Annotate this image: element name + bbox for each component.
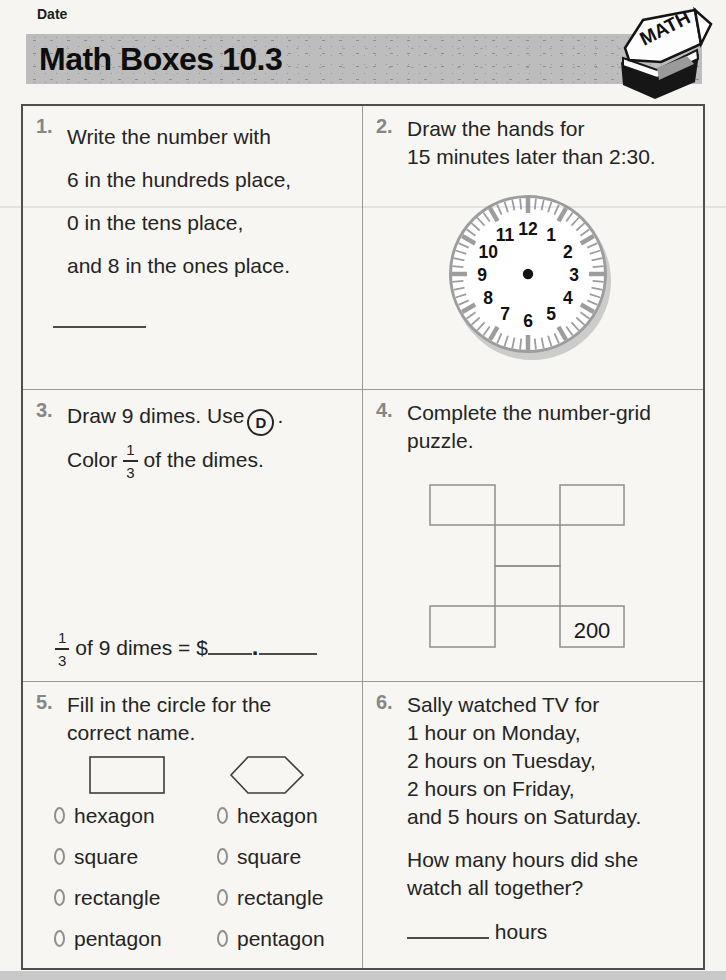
clock-minute-tick	[535, 198, 536, 209]
radio-circle[interactable]	[54, 807, 65, 824]
text-line: Fill in the circle for the	[67, 691, 362, 719]
option-row: rectangle	[54, 886, 162, 909]
hexagon-shape	[231, 757, 303, 793]
option-label: square	[74, 845, 138, 868]
option-row: pentagon	[217, 927, 325, 950]
fraction-denominator: 3	[123, 462, 137, 480]
text-line: 6 in the hundreds place,	[67, 158, 362, 201]
answer-blank[interactable]	[53, 322, 146, 328]
text-line: How many hours did she	[407, 846, 703, 874]
grid-value-200: 200	[574, 618, 611, 643]
option-row: rectangle	[217, 886, 325, 909]
radio-circle[interactable]	[217, 807, 228, 824]
option-row: hexagon	[54, 804, 162, 827]
hours-blank[interactable]	[407, 933, 489, 939]
clock-numeral: 1	[546, 225, 556, 245]
text-line: and 8 in the ones place.	[67, 244, 362, 287]
decimal-point: .	[252, 633, 259, 660]
text-line: Sally watched TV for	[407, 691, 703, 719]
option-row: square	[54, 845, 162, 868]
fraction-one-third: 13	[55, 630, 69, 668]
worksheet-page: Date Math Boxes 10.3 MATH 1. Write the n…	[0, 0, 726, 980]
text-line: Write the number with	[67, 115, 362, 158]
problem-number: 4.	[376, 399, 393, 422]
cents-blank[interactable]	[259, 649, 317, 655]
radio-circle[interactable]	[217, 930, 228, 947]
sentence-color-fraction: Color13of the dimes.	[67, 442, 264, 480]
radio-circle[interactable]	[54, 889, 65, 906]
text-line: correct name.	[67, 719, 362, 747]
rectangle-shape	[90, 757, 164, 793]
grid-cell-empty[interactable]	[495, 566, 560, 606]
grid-cell-empty[interactable]	[495, 525, 560, 566]
grid-cell-empty[interactable]	[430, 606, 495, 647]
shape-figures	[81, 752, 309, 800]
sentence-text: Color	[67, 448, 117, 471]
problem-number: 1.	[36, 115, 53, 138]
clock-minute-tick	[593, 281, 604, 282]
text-line: Draw the hands for	[407, 115, 703, 143]
clock-center-dot	[523, 269, 533, 279]
text-line: 15 minutes later than 2:30.	[407, 143, 703, 171]
fraction-numerator: 1	[123, 442, 137, 462]
problem-number: 3.	[36, 399, 53, 422]
fraction-numerator: 1	[55, 630, 69, 650]
circled-d-symbol: D	[247, 409, 274, 436]
clock-numeral: 9	[477, 265, 487, 285]
text-line: watch all together?	[407, 874, 703, 902]
clock-face[interactable]: 121234567891011	[442, 190, 618, 368]
text-line: 2 hours on Tuesday,	[407, 747, 703, 775]
clock-numeral: 5	[546, 304, 556, 324]
text-line: 2 hours on Friday,	[407, 775, 703, 803]
clock-numeral: 4	[563, 288, 573, 308]
sentence-use-d: Draw 9 dimes. UseD.	[67, 404, 283, 436]
sentence-text: Draw 9 dimes. Use	[67, 404, 244, 427]
hours-answer-line: hours	[407, 920, 547, 944]
option-label: hexagon	[74, 804, 155, 827]
date-label: Date	[37, 6, 67, 22]
clock-numeral: 12	[518, 219, 538, 239]
option-row: hexagon	[217, 804, 325, 827]
option-label: square	[237, 845, 301, 868]
clock-numeral: 11	[496, 225, 515, 245]
clock-numeral: 3	[569, 265, 579, 285]
clock-numeral: 8	[483, 288, 493, 308]
grid-cell-empty[interactable]	[560, 485, 624, 525]
clock-numeral: 6	[523, 311, 533, 331]
option-label: pentagon	[237, 927, 325, 950]
text-line: 1 hour on Monday,	[407, 719, 703, 747]
option-label: pentagon	[74, 927, 162, 950]
sentence-text: .	[277, 404, 283, 427]
text-line: puzzle.	[407, 427, 703, 455]
clock-minute-tick	[520, 198, 521, 209]
text-line: Complete the number-grid	[407, 399, 703, 427]
problem-number: 6.	[376, 691, 393, 714]
text-line: and 5 hours on Saturday.	[407, 803, 703, 831]
options-column-rectangle: hexagonsquarerectanglepentagon	[54, 804, 162, 950]
sentence-text: of 9 dimes = $	[75, 636, 208, 659]
dimes-answer-line: 13of 9 dimes = $.	[49, 630, 317, 668]
clock-minute-tick	[520, 339, 521, 350]
problem-number: 2.	[376, 115, 393, 138]
box-3-dimes: 3. Draw 9 dimes. UseD. Color13of the dim…	[23, 390, 363, 682]
page-edge-strip	[0, 971, 726, 980]
option-label: rectangle	[74, 886, 160, 909]
clock-numeral: 2	[563, 242, 573, 262]
option-label: rectangle	[237, 886, 323, 909]
box-2-clock: 2. Draw the hands for15 minutes later th…	[363, 106, 703, 390]
problem-number: 5.	[36, 691, 53, 714]
radio-circle[interactable]	[54, 848, 65, 865]
clock-minute-tick	[535, 339, 536, 350]
box-6-tv-hours: 6. Sally watched TV for1 hour on Monday,…	[363, 682, 703, 968]
dollars-blank[interactable]	[208, 649, 252, 655]
hours-label: hours	[495, 920, 548, 943]
grid-cell-empty[interactable]	[430, 485, 495, 525]
radio-circle[interactable]	[217, 848, 228, 865]
options-column-hexagon: hexagonsquarerectanglepentagon	[217, 804, 325, 950]
fraction-denominator: 3	[55, 650, 69, 668]
radio-circle[interactable]	[217, 889, 228, 906]
option-row: square	[217, 845, 325, 868]
box-4-number-grid: 4. Complete the number-gridpuzzle. 200	[363, 390, 703, 682]
fraction-one-third: 13	[123, 442, 137, 480]
radio-circle[interactable]	[54, 930, 65, 947]
